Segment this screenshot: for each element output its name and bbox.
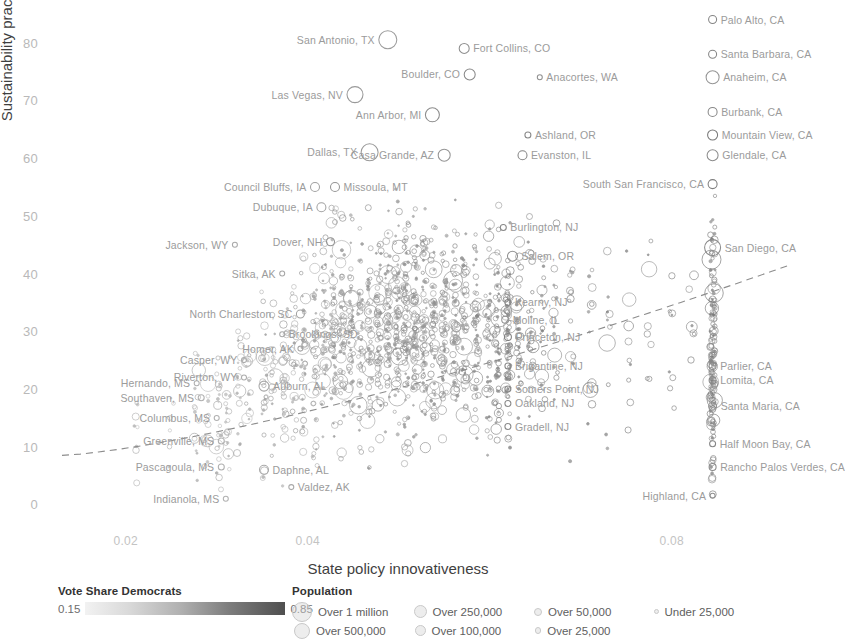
data-point — [416, 245, 419, 248]
data-point — [261, 413, 263, 415]
data-point — [487, 454, 489, 456]
data-point — [358, 429, 360, 431]
data-point — [507, 343, 509, 345]
point-label: Gradell, NJ — [515, 421, 569, 433]
data-point — [421, 291, 426, 296]
data-point — [398, 391, 400, 393]
labeled-data-point — [331, 183, 340, 192]
data-point — [493, 401, 497, 405]
data-point — [713, 194, 716, 197]
data-point — [293, 315, 296, 318]
data-point — [393, 410, 396, 413]
data-point — [404, 305, 408, 309]
data-point — [485, 416, 487, 418]
data-point — [350, 242, 352, 244]
population-legend-item: Over 25,000 — [528, 625, 646, 637]
population-legend-items: Over 1 millionOver 250,000Over 50,000Und… — [292, 602, 764, 639]
point-label: Anaheim, CA — [723, 71, 787, 83]
data-point — [487, 376, 489, 378]
population-legend-label: Over 500,000 — [316, 625, 386, 637]
population-bubble-icon — [654, 609, 659, 614]
data-point — [357, 355, 361, 359]
data-point — [368, 246, 373, 251]
data-point — [342, 414, 345, 417]
data-point — [350, 349, 352, 351]
data-point — [669, 273, 675, 279]
data-point — [422, 331, 425, 334]
data-point — [508, 412, 512, 416]
data-point — [376, 396, 378, 398]
data-point — [377, 398, 384, 405]
data-point — [365, 384, 371, 390]
data-point — [568, 319, 572, 323]
data-point — [316, 289, 318, 291]
data-point — [324, 395, 326, 397]
data-point — [325, 366, 327, 368]
data-point — [590, 268, 594, 272]
data-point — [402, 332, 406, 336]
data-point — [312, 295, 315, 298]
data-point — [369, 416, 371, 418]
data-point — [352, 352, 356, 356]
data-point — [406, 395, 410, 399]
data-point — [313, 291, 315, 293]
data-point — [627, 399, 634, 406]
data-point — [497, 271, 500, 274]
data-point — [711, 437, 713, 439]
point-label: South San Francisco, CA — [583, 178, 704, 190]
data-point — [318, 273, 329, 284]
colorbar-gradient — [85, 602, 285, 615]
data-point — [474, 378, 479, 383]
data-point — [262, 433, 266, 437]
data-point — [403, 322, 406, 325]
data-point — [393, 342, 396, 345]
data-point — [229, 395, 232, 398]
point-label: Parlier, CA — [720, 360, 772, 372]
population-legend-item: Over 500,000 — [292, 623, 410, 639]
data-point — [474, 233, 477, 236]
data-point — [505, 394, 509, 398]
point-label: Ashland, OR — [535, 129, 596, 141]
data-point — [509, 446, 512, 449]
data-point — [518, 264, 524, 270]
data-point — [367, 282, 370, 285]
labeled-data-point — [214, 415, 219, 420]
point-label: San Diego, CA — [725, 242, 796, 254]
data-point — [709, 330, 711, 332]
data-point — [537, 285, 547, 295]
labeled-data-point — [425, 108, 439, 122]
data-point — [385, 277, 387, 279]
data-point — [509, 284, 511, 286]
point-label: Columbus, MS — [140, 412, 211, 424]
labeled-data-point — [709, 16, 717, 24]
data-point — [322, 289, 324, 291]
data-point — [291, 401, 293, 403]
data-point — [315, 418, 317, 420]
data-point — [587, 310, 590, 313]
labeled-data-point — [242, 375, 247, 380]
point-label: Anacortes, WA — [546, 71, 618, 83]
data-point — [270, 363, 275, 368]
population-legend-label: Over 1 million — [318, 606, 388, 618]
data-point — [686, 286, 693, 293]
data-point — [389, 365, 391, 367]
population-bubble-icon — [294, 623, 310, 639]
data-point — [422, 309, 426, 313]
data-point — [134, 480, 140, 486]
labeled-data-point — [707, 150, 718, 161]
data-point — [412, 335, 414, 337]
labeled-data-point — [289, 485, 294, 490]
data-point — [475, 258, 477, 260]
data-point — [403, 287, 405, 289]
data-point — [452, 283, 454, 285]
data-point — [412, 215, 414, 217]
labeled-data-point — [525, 132, 531, 138]
data-point — [384, 402, 388, 406]
data-point — [389, 306, 392, 309]
data-point — [430, 291, 436, 297]
data-point — [271, 434, 275, 438]
data-point — [484, 258, 495, 269]
colorbar-title: Vote Share Democrats — [58, 585, 313, 597]
data-point — [396, 208, 403, 215]
data-point — [300, 293, 310, 303]
